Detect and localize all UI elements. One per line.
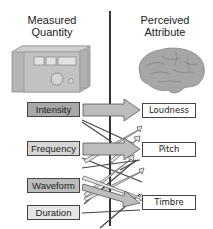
quantity-label: Frequency <box>31 143 76 154</box>
quantity-duration: Duration <box>27 205 80 220</box>
brain-icon <box>139 48 204 93</box>
quantity-label: Intensity <box>36 104 71 115</box>
attribute-label: Pitch <box>159 144 180 154</box>
quantity-frequency: Frequency <box>27 141 80 156</box>
attribute-pitch: Pitch <box>142 142 196 157</box>
measuring-device-icon <box>12 46 90 92</box>
arrow-intensity-loudness <box>83 99 140 121</box>
attribute-label: Timbre <box>154 197 184 207</box>
major-arrows <box>82 99 140 207</box>
attribute-timbre: Timbre <box>142 195 196 210</box>
quantity-intensity: Intensity <box>27 102 80 117</box>
attribute-loudness: Loudness <box>142 103 196 118</box>
quantity-label: Duration <box>36 207 72 218</box>
attribute-label: Loudness <box>149 105 189 115</box>
quantity-waveform: Waveform <box>27 178 80 193</box>
quantity-label: Waveform <box>32 180 75 191</box>
